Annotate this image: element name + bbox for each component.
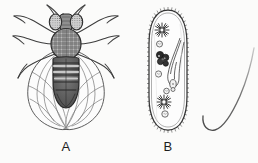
- figure-panel-paramecium: [136, 4, 200, 136]
- figure-panel-fly: [10, 2, 122, 136]
- caption-label-a: A: [56, 140, 76, 154]
- caption-label-b: B: [158, 140, 178, 154]
- fly-abdomen: [53, 57, 79, 108]
- anterior-contractile-vacuole: [155, 23, 169, 37]
- pellicle-outline: [149, 10, 187, 130]
- paramecium-illustration: [136, 4, 200, 136]
- compound-eye-left: [49, 14, 61, 30]
- compound-eye-right: [70, 14, 82, 30]
- posterior-contractile-vacuole: [157, 95, 171, 109]
- curved-stroke: [203, 48, 254, 130]
- fly-illustration: [10, 2, 122, 136]
- curved-filament-illustration: [196, 36, 258, 136]
- cytopharynx: [170, 80, 176, 92]
- leg-foreleg-right: [77, 16, 118, 33]
- micronucleus: [161, 58, 164, 61]
- leg-foreleg-left: [14, 16, 55, 33]
- figure-plate: A B: [0, 0, 258, 163]
- figure-panel-curve: [196, 36, 258, 136]
